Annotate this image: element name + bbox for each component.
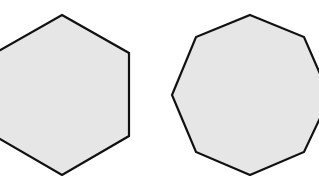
nonagon-shape bbox=[172, 15, 319, 175]
hexagon-shape bbox=[0, 15, 129, 175]
polygon-figure bbox=[0, 0, 319, 176]
